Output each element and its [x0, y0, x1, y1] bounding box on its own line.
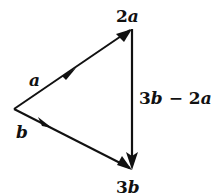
label-edge-b: b	[16, 122, 28, 142]
vector-triangle-diagram: 2a 3b a b 3b − 2a	[0, 0, 219, 196]
label-edge-right: 3b − 2a	[139, 88, 212, 108]
label-bottom-vertex: 3b	[116, 177, 140, 196]
vector-b-line	[14, 109, 130, 168]
vector-2a-end-arrow-icon	[116, 29, 132, 42]
label-edge-a: a	[29, 70, 40, 90]
label-top-vertex: 2a	[116, 6, 139, 26]
